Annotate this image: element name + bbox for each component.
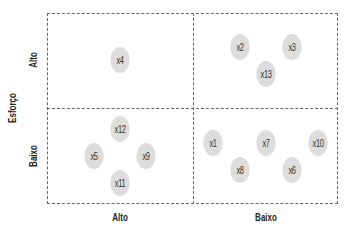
item-x10: x10: [308, 130, 328, 156]
item-label: x7: [262, 138, 269, 149]
item-x4: x4: [110, 47, 130, 73]
x-label-baixo: Baixo: [255, 212, 277, 223]
item-x7: x7: [256, 130, 276, 156]
item-label: x8: [236, 165, 243, 176]
item-label: x13: [261, 69, 272, 80]
horizontal-divider: [47, 108, 338, 109]
item-x12: x12: [110, 116, 130, 142]
item-label: x5: [90, 151, 97, 162]
item-label: x1: [209, 138, 216, 149]
item-x2: x2: [230, 34, 250, 60]
item-label: x11: [115, 178, 125, 189]
item-x6: x6: [282, 157, 302, 183]
y-label-baixo: Baixo: [28, 145, 39, 167]
y-label-alto: Alto: [28, 52, 39, 68]
y-axis-title: Esforço: [7, 93, 18, 123]
item-label: x4: [116, 55, 123, 66]
item-label: x3: [288, 42, 295, 53]
item-x5: x5: [84, 143, 104, 169]
item-label: x2: [236, 42, 243, 53]
item-x13: x13: [256, 61, 276, 87]
item-label: x10: [313, 138, 324, 149]
item-x3: x3: [282, 34, 302, 60]
item-label: x6: [288, 165, 295, 176]
item-x8: x8: [230, 157, 250, 183]
x-label-alto: Alto: [112, 212, 128, 223]
item-x11: x11: [110, 170, 130, 196]
item-label: x12: [115, 124, 126, 135]
item-x9: x9: [136, 143, 156, 169]
item-x1: x1: [203, 130, 223, 156]
item-label: x9: [142, 151, 149, 162]
